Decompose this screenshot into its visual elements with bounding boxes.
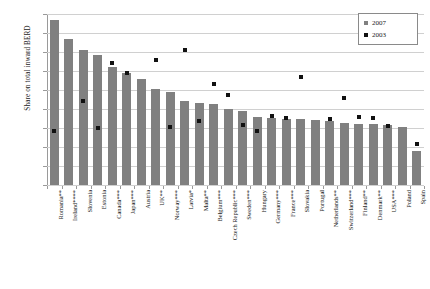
gridline bbox=[47, 147, 424, 148]
x-axis-category-label: Austria bbox=[144, 190, 151, 209]
x-axis-category-label: Finland** bbox=[361, 190, 368, 216]
x-axis-tick-mark bbox=[62, 186, 63, 189]
bar bbox=[122, 73, 131, 185]
data-marker bbox=[328, 117, 332, 121]
bar bbox=[311, 120, 320, 185]
bar bbox=[267, 118, 276, 185]
x-axis-category-label: Japan*** bbox=[129, 190, 136, 214]
gridline bbox=[47, 109, 424, 110]
bar bbox=[50, 20, 59, 185]
data-marker bbox=[415, 142, 419, 146]
gridline bbox=[47, 90, 424, 91]
x-axis-category-label: Slovenia bbox=[86, 190, 93, 212]
data-marker bbox=[183, 48, 187, 52]
black-square-swatch bbox=[364, 33, 368, 37]
bar bbox=[195, 103, 204, 185]
data-marker bbox=[371, 116, 375, 120]
x-axis-tick-mark bbox=[308, 186, 309, 189]
x-axis-tick-mark bbox=[337, 186, 338, 189]
x-axis-category-label: Denmark** bbox=[376, 190, 383, 220]
bar bbox=[369, 124, 378, 185]
chart-container: Share on total inward BERD 90%80%70%60%5… bbox=[0, 0, 430, 289]
data-marker bbox=[154, 58, 158, 62]
data-marker bbox=[96, 126, 100, 130]
x-axis-tick-mark bbox=[178, 186, 179, 189]
gridline bbox=[47, 71, 424, 72]
data-marker bbox=[241, 123, 245, 127]
bar bbox=[398, 127, 407, 185]
x-axis-category-label: Netherlands** bbox=[332, 190, 339, 227]
legend-label-2003: 2003 bbox=[372, 31, 386, 39]
bar bbox=[383, 125, 392, 185]
data-marker bbox=[284, 116, 288, 120]
x-axis-category-label: Romania** bbox=[57, 190, 64, 219]
bar bbox=[340, 123, 349, 185]
x-axis-category-label: Switzerland*** bbox=[347, 190, 354, 230]
bar bbox=[238, 111, 247, 185]
bar bbox=[166, 92, 175, 185]
x-axis-tick-mark bbox=[47, 186, 48, 189]
x-axis-tick-mark bbox=[410, 186, 411, 189]
gray-square-swatch bbox=[364, 21, 368, 25]
x-axis-category-label: Czech Republic*** bbox=[231, 190, 238, 240]
data-marker bbox=[342, 96, 346, 100]
x-axis-tick-mark bbox=[279, 186, 280, 189]
data-marker bbox=[386, 124, 390, 128]
bar bbox=[79, 50, 88, 185]
bar bbox=[151, 89, 160, 185]
x-axis-tick-mark bbox=[76, 186, 77, 189]
x-axis-tick-mark bbox=[134, 186, 135, 189]
bar bbox=[296, 119, 305, 185]
x-axis-category-label: Slovakia bbox=[303, 190, 310, 212]
x-axis-category-label: Malta** bbox=[202, 190, 209, 211]
data-marker bbox=[110, 61, 114, 65]
x-axis-tick-mark bbox=[207, 186, 208, 189]
x-axis-tick-mark bbox=[221, 186, 222, 189]
x-axis-tick-mark bbox=[395, 186, 396, 189]
data-marker bbox=[125, 71, 129, 75]
y-axis-title: Share on total inward BERD bbox=[24, 0, 32, 143]
x-axis-tick-mark bbox=[265, 186, 266, 189]
x-axis-tick-mark bbox=[352, 186, 353, 189]
bar bbox=[354, 124, 363, 185]
data-marker bbox=[270, 114, 274, 118]
x-axis-category-label: Ireland**** bbox=[71, 190, 78, 221]
x-axis-category-label: Sweden*** bbox=[245, 190, 252, 220]
x-axis-tick-mark bbox=[424, 186, 425, 189]
x-axis-category-label: Portugal bbox=[318, 190, 325, 212]
bar bbox=[282, 119, 291, 186]
gridline bbox=[47, 52, 424, 53]
x-axis-tick-mark bbox=[91, 186, 92, 189]
legend-item-2007: 2007 bbox=[364, 17, 417, 29]
bar bbox=[209, 104, 218, 185]
x-axis-category-label: Estonia bbox=[100, 190, 107, 209]
x-axis-tick-mark bbox=[105, 186, 106, 189]
chart-legend: 2007 2003 bbox=[358, 13, 418, 45]
bar bbox=[224, 109, 233, 185]
bar bbox=[108, 67, 117, 185]
legend-label-2007: 2007 bbox=[372, 19, 386, 27]
x-axis-category-label: UK** bbox=[158, 190, 165, 206]
bar bbox=[253, 117, 262, 185]
x-axis-tick-mark bbox=[163, 186, 164, 189]
x-axis-tick-mark bbox=[149, 186, 150, 189]
x-axis-category-label: Canada*** bbox=[115, 190, 122, 219]
x-axis-tick-mark bbox=[366, 186, 367, 189]
bar bbox=[137, 79, 146, 185]
x-axis-category-label: Hungary bbox=[260, 190, 267, 212]
x-axis-tick-mark bbox=[120, 186, 121, 189]
bar bbox=[93, 55, 102, 185]
data-marker bbox=[52, 129, 56, 133]
x-axis-tick-mark bbox=[294, 186, 295, 189]
bar bbox=[412, 151, 421, 185]
x-axis-tick-mark bbox=[192, 186, 193, 189]
data-marker bbox=[197, 119, 201, 123]
data-marker bbox=[212, 82, 216, 86]
x-axis-tick-mark bbox=[323, 186, 324, 189]
data-marker bbox=[357, 115, 361, 119]
x-axis-category-label: Belgium*** bbox=[216, 190, 223, 222]
x-axis-category-label: Poland bbox=[405, 190, 412, 208]
bar bbox=[325, 121, 334, 185]
x-axis-category-label: France*** bbox=[289, 190, 296, 217]
x-axis-tick-mark bbox=[381, 186, 382, 189]
